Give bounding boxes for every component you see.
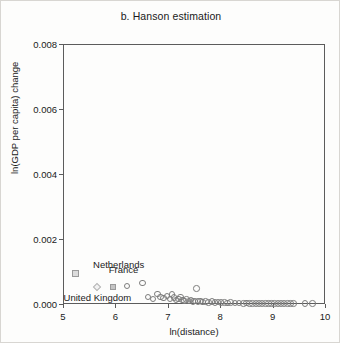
data-point: [124, 283, 131, 290]
x-tick-mark: [115, 304, 116, 308]
y-tick-mark: [59, 109, 63, 110]
y-tick-mark: [59, 174, 63, 175]
plot-area: 0.0000.0020.0040.0060.008 5678910 Nether…: [63, 44, 325, 304]
y-tick-label: 0.006: [33, 104, 57, 115]
x-tick-mark: [325, 304, 326, 308]
data-point: [193, 285, 200, 292]
y-tick-label: 0.004: [33, 169, 57, 180]
legend-swatch: [72, 270, 79, 277]
chart-title: b. Hanson estimation: [1, 10, 340, 22]
annotation-france: France: [109, 264, 139, 275]
y-tick-mark: [59, 239, 63, 240]
x-tick-mark: [63, 304, 64, 308]
figure-panel: b. Hanson estimation ln(GDP per capita) …: [0, 0, 340, 343]
y-axis-label: ln(GDP per capita) change: [9, 62, 20, 174]
x-tick-label: 6: [113, 311, 118, 322]
x-tick-label: 9: [270, 311, 275, 322]
x-axis-label: ln(distance): [63, 326, 325, 337]
x-tick-label: 7: [165, 311, 170, 322]
x-tick-label: 10: [320, 311, 331, 322]
data-point: [302, 300, 309, 307]
annotation-united-kingdom: United Kingdom: [64, 292, 132, 303]
data-point: [290, 300, 297, 307]
y-tick-label: 0.000: [33, 299, 57, 310]
x-tick-mark: [168, 304, 169, 308]
data-point: [309, 300, 316, 307]
y-tick-mark: [59, 44, 63, 45]
data-point: [110, 284, 117, 291]
data-point: [139, 280, 146, 287]
data-point: [92, 283, 100, 291]
y-tick-label: 0.002: [33, 234, 57, 245]
y-tick-label: 0.008: [33, 39, 57, 50]
x-tick-label: 5: [60, 311, 65, 322]
x-tick-label: 8: [218, 311, 223, 322]
